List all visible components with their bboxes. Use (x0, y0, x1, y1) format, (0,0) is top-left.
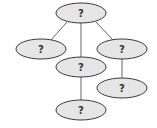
tree-node-middle: ? (56, 57, 106, 77)
node-label: ? (78, 105, 84, 116)
node-label: ? (38, 44, 44, 55)
node-label: ? (119, 44, 125, 55)
tree-node-root: ? (56, 3, 106, 23)
node-label: ? (119, 83, 125, 94)
tree-node-middle-child: ? (56, 100, 106, 120)
tree-node-right-child: ? (97, 78, 147, 98)
node-label: ? (78, 62, 84, 73)
tree-node-right: ? (97, 39, 147, 59)
edge-root-left (51, 22, 67, 40)
tree-node-left: ? (16, 39, 66, 59)
tree-diagram: ? ? ? ? ? ? (0, 0, 157, 128)
edge-root-right (96, 22, 113, 40)
node-label: ? (78, 8, 84, 19)
